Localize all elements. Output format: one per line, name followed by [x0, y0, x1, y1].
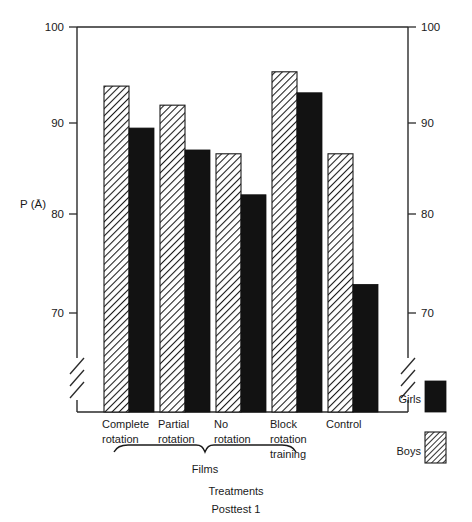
- y-axis-break-right: [401, 358, 415, 398]
- y-tick-label-right-80: 80: [421, 208, 434, 220]
- bar-girls-no-rotation: [241, 195, 266, 412]
- y-tick-label-right-90: 90: [421, 117, 434, 129]
- bar-chart-svg: 100 90 80 70 100 90 80 70 P (Ā) Complete…: [0, 0, 472, 522]
- bar-girls-complete-rotation: [129, 128, 154, 412]
- category-label-block-rotation-training-line2: rotation: [270, 433, 307, 445]
- y-tick-label-right-70: 70: [421, 307, 434, 319]
- category-label-block-rotation-training-line3: training: [270, 448, 306, 460]
- category-labels-group: CompleterotationPartialrotationNorotatio…: [102, 418, 361, 460]
- bar-boys-partial-rotation: [160, 105, 185, 412]
- category-label-control-line1: Control: [326, 418, 361, 430]
- films-bracket-label: Films: [192, 463, 219, 475]
- chart-figure: 100 90 80 70 100 90 80 70 P (Ā) Complete…: [0, 0, 472, 522]
- bar-boys-control: [328, 154, 353, 412]
- category-label-complete-rotation-line1: Complete: [102, 418, 149, 430]
- bar-boys-no-rotation: [216, 154, 241, 412]
- legend: Girls Boys: [397, 381, 446, 463]
- bars-group: [104, 72, 378, 412]
- films-bracket: [114, 445, 296, 452]
- category-label-block-rotation-training-line1: Block: [270, 418, 297, 430]
- category-label-no-rotation-line2: rotation: [214, 433, 251, 445]
- bar-girls-control: [353, 284, 378, 412]
- chart-caption: Posttest 1: [212, 503, 261, 515]
- y-axis-title: P (Ā): [20, 198, 46, 210]
- y-axis-right-ticks: [408, 27, 416, 313]
- y-tick-label-left-90: 90: [51, 117, 64, 129]
- y-axis-left-ticks: [69, 27, 77, 313]
- y-tick-label-left-100: 100: [45, 21, 64, 33]
- y-axis-break-left: [70, 358, 84, 398]
- bar-girls-block-rotation-training: [297, 93, 322, 412]
- bar-boys-complete-rotation: [104, 86, 129, 412]
- x-axis-title: Treatments: [208, 485, 264, 497]
- y-tick-label-right-100: 100: [421, 21, 440, 33]
- legend-swatch-boys: [425, 432, 446, 463]
- y-tick-label-left-80: 80: [51, 208, 64, 220]
- bar-girls-partial-rotation: [185, 150, 210, 412]
- category-label-complete-rotation-line2: rotation: [102, 433, 139, 445]
- bar-boys-block-rotation-training: [272, 72, 297, 412]
- category-label-partial-rotation-line2: rotation: [158, 433, 195, 445]
- y-tick-label-left-70: 70: [51, 307, 64, 319]
- category-label-no-rotation-line1: No: [214, 418, 228, 430]
- category-label-partial-rotation-line1: Partial: [158, 418, 189, 430]
- legend-swatch-girls: [425, 381, 446, 412]
- legend-label-boys: Boys: [397, 445, 422, 457]
- legend-label-girls: Girls: [398, 393, 421, 405]
